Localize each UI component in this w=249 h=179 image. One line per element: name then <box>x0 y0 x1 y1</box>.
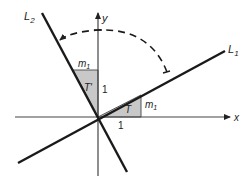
label-x-axis: x <box>233 112 240 123</box>
label-one-vertical: 1 <box>102 84 108 95</box>
label-l1: L1 <box>228 43 239 58</box>
label-m1-right: m1 <box>145 99 157 111</box>
arc-tick-l1 <box>163 71 170 73</box>
triangle-t <box>98 95 141 117</box>
label-t: T <box>125 104 132 115</box>
rotation-arc <box>60 30 167 72</box>
perpendicular-lines-diagram: L2 L1 y x m1 T' 1 T m1 1 <box>0 0 249 179</box>
label-l2: L2 <box>24 10 35 25</box>
label-t-prime: T' <box>84 82 93 93</box>
label-y-axis: y <box>101 12 109 24</box>
diagram-canvas: L2 L1 y x m1 T' 1 T m1 1 <box>0 0 249 179</box>
label-one-horizontal: 1 <box>118 120 124 131</box>
label-m1-top: m1 <box>78 58 90 70</box>
line-l1 <box>18 51 225 163</box>
